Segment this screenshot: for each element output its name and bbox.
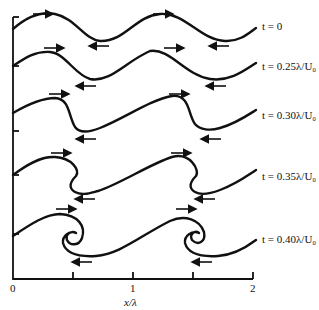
panel-label-t030: t = 0.30λ/U₀ bbox=[262, 109, 316, 121]
x-tick-2: 2 bbox=[250, 282, 256, 294]
panel-label-t025: t = 0.25λ/U₀ bbox=[262, 60, 316, 72]
x-tick-0: 0 bbox=[10, 282, 16, 294]
panel-label-t035: t = 0.35λ/U₀ bbox=[262, 170, 316, 182]
interface-t030 bbox=[13, 96, 256, 132]
x-tick-1: 1 bbox=[130, 282, 136, 294]
panel-label-t0: t = 0 bbox=[262, 20, 282, 32]
kh-instability-diagram bbox=[0, 0, 319, 310]
interface-t035 bbox=[13, 156, 256, 194]
panel-label-t040: t = 0.40λ/U₀ bbox=[262, 233, 316, 245]
x-axis-label: x/λ bbox=[124, 296, 137, 308]
axes-frame bbox=[13, 17, 193, 279]
interface-t025 bbox=[13, 51, 256, 80]
interface-t0 bbox=[13, 13, 256, 41]
interface-t040 bbox=[13, 214, 256, 256]
